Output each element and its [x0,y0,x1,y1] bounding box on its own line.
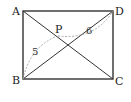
label-d: D [115,5,124,18]
measure-bp-value: 5 [32,46,38,57]
label-c: C [115,75,123,88]
geometry-diagram: A D B C P 5 6 [0,0,131,102]
measure-pd-value: 6 [86,25,92,36]
label-a: A [11,5,21,18]
label-b: B [12,74,20,87]
label-p: P [55,23,63,36]
